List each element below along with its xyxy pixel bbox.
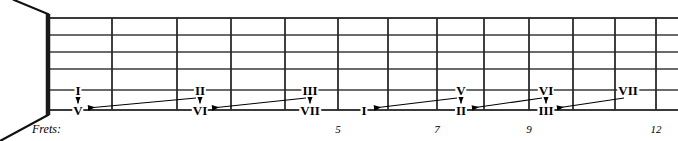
fretboard-canvas	[0, 0, 678, 141]
marker-m2-bottom: VI	[192, 104, 208, 117]
marker-m2-top: II	[194, 84, 206, 97]
marker-m6-top: VI	[538, 84, 554, 97]
perspective-edges	[0, 0, 48, 141]
marker-m1-top: I	[74, 84, 81, 97]
fretboard-figure: IVIIVIIIIVIIIVIIVIIIIVII 57912 Frets:	[0, 0, 678, 141]
marker-m1-bottom: V	[72, 104, 83, 117]
perspective-top-edge	[14, 0, 48, 14]
frets-caption: Frets:	[32, 123, 61, 135]
marker-m7-top: VII	[617, 84, 639, 97]
slide-1-arrow	[88, 98, 196, 108]
fret-number-5: 5	[335, 124, 341, 135]
slide-3-arrow	[374, 98, 457, 108]
slide-2-arrow	[212, 98, 306, 108]
marker-m4-bottom: I	[360, 104, 367, 117]
marker-m5-bottom: II	[455, 104, 467, 117]
fret-number-9: 9	[526, 124, 532, 135]
slide-4-arrow	[472, 98, 542, 108]
string-group	[48, 18, 678, 110]
marker-m5-top: V	[455, 84, 466, 97]
marker-m6-bottom: III	[537, 104, 554, 117]
slide-5-arrow	[557, 98, 624, 108]
fret-number-12: 12	[651, 124, 662, 135]
marker-m3-top: III	[301, 84, 318, 97]
fret-number-7: 7	[434, 124, 440, 135]
marker-m3-bottom: VII	[299, 104, 321, 117]
